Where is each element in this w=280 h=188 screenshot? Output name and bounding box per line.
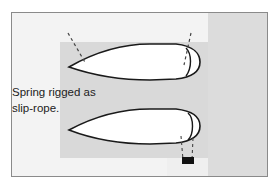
diagram-caption: Spring rigged as slip-rope. [12,84,96,116]
upper-boat [69,44,200,80]
bow-line-upper [68,33,86,64]
slip-rope-spring-b [192,138,193,160]
caption-line-1: Spring rigged as [12,84,96,100]
cleat-icon [182,157,194,164]
caption-line-2: slip-rope. [12,100,96,116]
